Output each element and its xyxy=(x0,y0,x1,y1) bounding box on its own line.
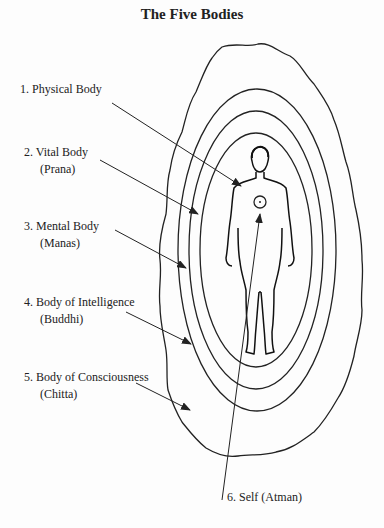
label-consciousness-body-sanskrit: (Chitta) xyxy=(24,387,149,401)
label-self: 6. Self (Atman) xyxy=(227,490,302,504)
arrow-vital-body xyxy=(100,160,198,214)
label-consciousness-body-name: 5. Body of Consciousness xyxy=(24,370,149,384)
five-bodies-figure xyxy=(0,0,384,528)
label-intelligence-body: 4. Body of Intelligence (Buddhi) xyxy=(24,295,135,326)
mental-sheath-ellipse xyxy=(189,111,323,389)
label-intelligence-body-name: 4. Body of Intelligence xyxy=(24,295,135,309)
label-intelligence-body-sanskrit: (Buddhi) xyxy=(24,312,135,326)
arrow-mental-body xyxy=(115,230,186,268)
label-mental-body: 3. Mental Body (Manas) xyxy=(24,219,99,250)
label-self-name: 6. Self (Atman) xyxy=(227,490,302,504)
human-figure xyxy=(226,147,294,354)
label-vital-body-name: 2. Vital Body xyxy=(24,145,88,159)
label-physical-body-name: 1. Physical Body xyxy=(20,82,102,96)
arrow-physical-body xyxy=(112,103,241,186)
consciousness-sheath-boundary xyxy=(159,44,362,457)
arrow-self xyxy=(222,214,260,500)
label-vital-body: 2. Vital Body (Prana) xyxy=(24,145,88,176)
label-vital-body-sanskrit: (Prana) xyxy=(24,162,88,176)
label-mental-body-name: 3. Mental Body xyxy=(24,219,99,233)
label-consciousness-body: 5. Body of Consciousness (Chitta) xyxy=(24,370,149,401)
label-physical-body: 1. Physical Body xyxy=(20,82,102,96)
self-heart-dot xyxy=(259,201,261,203)
diagram-canvas: The Five Bodies xyxy=(0,0,384,528)
label-mental-body-sanskrit: (Manas) xyxy=(24,236,99,250)
arrow-intelligence-body xyxy=(126,312,191,344)
